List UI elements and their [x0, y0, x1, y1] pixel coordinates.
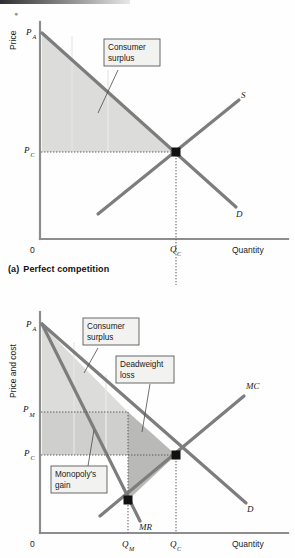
y-axis-label-b: Price and cost	[8, 344, 18, 398]
demand-curve-label-a: D	[235, 209, 243, 219]
competitive-equilibrium-marker-a	[172, 148, 181, 157]
deadweight-loss-callout-line1-b: Deadweight	[120, 360, 164, 369]
y-tick-pc-sub-a: C	[31, 151, 36, 158]
y-tick-pc-sub-b: C	[31, 454, 36, 461]
panel-a-caption: (a)Perfect competition	[8, 264, 109, 274]
marginal-revenue-curve-label-b: MR	[138, 522, 152, 532]
consumer-surplus-callout-line1-b: Consumer	[87, 322, 125, 331]
panel-a-caption-text: Perfect competition	[23, 264, 109, 274]
y-tick-pa-a: P	[25, 27, 32, 37]
origin-label-b: 0	[30, 539, 35, 549]
scan-speck: ●	[14, 10, 18, 17]
x-tick-qc-sub-b: C	[177, 545, 182, 552]
y-tick-pc-a: P	[23, 145, 30, 155]
marginal-cost-curve-label-b: MC	[245, 381, 260, 391]
consumer-surplus-callout-line2-a: surplus	[108, 54, 134, 63]
deadweight-loss-leader-b	[142, 384, 150, 432]
y-tick-pm-b: P	[22, 404, 29, 414]
x-tick-qc-b: Q	[170, 539, 177, 549]
y-tick-pa-sub-b: A	[32, 325, 37, 332]
demand-curve-label-b: D	[246, 504, 254, 514]
consumer-surplus-callout-line2-b: surplus	[87, 333, 113, 342]
y-tick-pa-b: P	[25, 319, 32, 329]
panel-a-perfect-competition: Price P A P C Q C 0 Quantity S D Consume…	[8, 22, 288, 285]
y-tick-pm-sub-b: M	[29, 411, 36, 418]
economics-figure: Price P A P C Q C 0 Quantity S D Consume…	[0, 0, 295, 558]
x-tick-qm-b: Q	[122, 539, 129, 549]
x-axis-label-b: Quantity	[232, 539, 264, 549]
supply-curve-label-a: S	[241, 90, 246, 100]
monopoly-output-marker-b	[124, 496, 133, 505]
consumer-surplus-callout-line1-a: Consumer	[108, 43, 146, 52]
x-axis-label-a: Quantity	[232, 245, 264, 255]
figure-page: Price P A P C Q C 0 Quantity S D Consume…	[0, 0, 295, 558]
panel-a-caption-tag: (a)	[8, 264, 19, 274]
y-tick-pc-b: P	[23, 448, 30, 458]
x-tick-qm-sub-b: M	[128, 545, 135, 552]
x-tick-qc-sub-a: C	[177, 250, 182, 257]
competitive-equilibrium-marker-b	[172, 451, 181, 460]
y-axis-label-a: Price	[8, 30, 18, 50]
origin-label-a: 0	[30, 245, 35, 255]
deadweight-loss-callout-line2-b: loss	[120, 371, 135, 380]
monopoly-gain-callout-line2-b: gain	[55, 481, 71, 490]
y-tick-pa-sub-a: A	[32, 33, 37, 40]
monopoly-gain-callout-line1-b: Monopoly's	[55, 470, 96, 479]
panel-b-monopoly: Price and cost P A P M P C Q M Q C 0 Qua…	[8, 312, 288, 552]
x-tick-qc-a: Q	[170, 244, 177, 254]
